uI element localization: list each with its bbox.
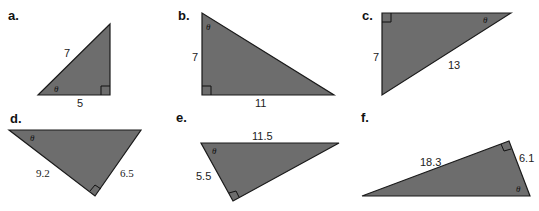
triangle-f: f. 18.3 6.1 θ <box>361 110 534 196</box>
label-letter-d: d. <box>10 111 22 126</box>
side-label-b-base: 11 <box>255 97 266 109</box>
triangle-shape-d <box>9 130 141 196</box>
triangle-c: c. 7 13 θ <box>362 8 511 95</box>
right-triangles-diagram: a. 7 5 θ b. 7 11 θ c. 7 13 θ d. 9.2 6.5 … <box>0 0 539 211</box>
triangle-d: d. 9.2 6.5 θ <box>9 111 141 196</box>
triangle-e: e. 11.5 5.5 θ <box>176 110 339 201</box>
side-label-b-vertical: 7 <box>192 51 198 63</box>
triangle-shape-b <box>202 13 334 95</box>
label-letter-f: f. <box>361 110 369 125</box>
side-label-e-top: 11.5 <box>252 130 273 142</box>
triangle-a: a. 7 5 θ <box>8 8 110 109</box>
side-label-f-short: 6.1 <box>519 152 534 164</box>
side-label-c-vertical: 7 <box>373 51 379 63</box>
side-label-f-hypotenuse: 18.3 <box>420 156 441 168</box>
side-label-d-left: 9.2 <box>36 167 50 179</box>
theta-b: θ <box>206 22 211 32</box>
triangle-shape-f <box>362 141 530 196</box>
label-letter-b: b. <box>178 8 190 23</box>
label-letter-e: e. <box>176 110 187 125</box>
theta-f: θ <box>516 184 521 194</box>
theta-c: θ <box>483 15 488 25</box>
theta-e: θ <box>212 146 217 156</box>
side-label-a-base: 5 <box>77 97 83 109</box>
side-label-e-left: 5.5 <box>196 170 211 182</box>
triangle-shape-e <box>201 143 339 201</box>
side-label-a-hypotenuse: 7 <box>64 47 70 59</box>
side-label-d-right: 6.5 <box>120 167 134 179</box>
theta-a: θ <box>54 84 59 94</box>
triangle-shape-a <box>38 24 110 95</box>
triangle-shape-c <box>382 13 511 95</box>
triangle-b: b. 7 11 θ <box>178 8 334 109</box>
label-letter-a: a. <box>8 8 19 23</box>
side-label-c-hypotenuse: 13 <box>448 59 460 71</box>
label-letter-c: c. <box>362 8 373 23</box>
theta-d: θ <box>30 133 35 143</box>
